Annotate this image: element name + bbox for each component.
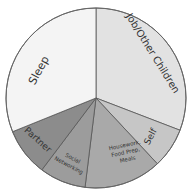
pie-slices	[6, 8, 186, 188]
pie-chart: Sleep Job/Other Children Self Housework,…	[0, 0, 194, 196]
